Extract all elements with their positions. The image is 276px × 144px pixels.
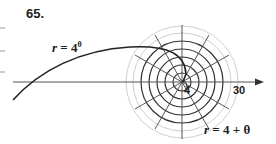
tick-30: 30 (233, 84, 245, 96)
margin-ticks (0, 28, 5, 72)
exp-curve (13, 47, 186, 100)
problem-number: 65. (26, 6, 44, 21)
axis-arrow (255, 79, 264, 86)
tick-4: 4 (184, 84, 190, 96)
label-exp-curve: r = 4θ (52, 40, 82, 56)
label-spiral: r = 4 + θ (204, 122, 250, 138)
